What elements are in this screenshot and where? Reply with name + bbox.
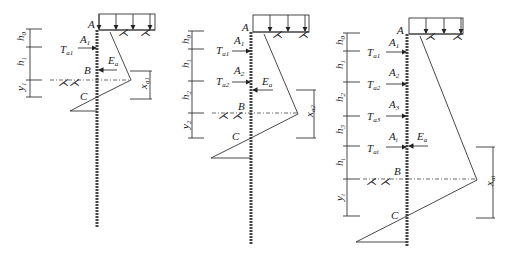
figure-single-anchor: ⋌ ⋌ ⋌⋌ h0 h1 y1 A A1 Ta1 Ea B C xa1: [14, 14, 155, 228]
dim-h1: h1: [14, 57, 28, 66]
point-C: C: [391, 209, 399, 221]
point-C: C: [232, 130, 240, 142]
dim-xa1: xa1: [137, 77, 151, 90]
anchor-point-A1: A1: [388, 36, 399, 50]
dim-xa2: xa2: [303, 105, 317, 118]
earth-pressure-Ea: Ea: [107, 54, 119, 68]
svg-text:⋌: ⋌: [118, 26, 129, 38]
anchor-force-Ta1: Ta1: [216, 44, 229, 58]
figure-multi-anchor: ⋌ ⋌ ⋌ ⋌ h0 h1 h2 h3 hi yi A A1 Ta1 A2 Ta…: [333, 18, 497, 247]
dim-y2: y2: [179, 120, 193, 130]
svg-text:⋌: ⋌: [452, 30, 463, 42]
svg-text:⋌: ⋌: [272, 28, 283, 40]
point-B: B: [84, 64, 91, 76]
anchor-force-Ta2: Ta2: [216, 75, 230, 89]
point-A: A: [87, 18, 95, 30]
point-C: C: [80, 90, 88, 102]
dim-h2: h2: [179, 91, 193, 101]
svg-text:⋌: ⋌: [298, 28, 309, 40]
svg-text:⋌ ⋌: ⋌ ⋌: [366, 175, 391, 187]
anchor-point-A1: A1: [233, 34, 244, 48]
dim-h0: h0: [333, 36, 347, 46]
svg-text:⋌: ⋌: [425, 30, 436, 42]
anchor-point-A2: A2: [388, 66, 400, 80]
anchor-point-A3: A3: [388, 98, 400, 112]
earth-pressure-Ea: Ea: [261, 75, 273, 89]
svg-text:⋌⋌: ⋌⋌: [58, 76, 80, 88]
anchor-force-Ta2: Ta2: [367, 78, 381, 92]
point-B: B: [238, 100, 245, 112]
point-A: A: [241, 21, 249, 33]
dim-h0: h0: [179, 35, 193, 45]
dim-y1: y1: [14, 83, 28, 92]
anchor-force-Tai: Tai: [367, 142, 379, 156]
dim-h3: h3: [333, 125, 347, 135]
anchor-point-Ai: Ai: [388, 130, 398, 144]
dim-h1: h1: [333, 60, 347, 69]
point-A: A: [396, 24, 404, 36]
dim-h1: h1: [179, 59, 193, 68]
anchor-point-A1: A1: [79, 33, 90, 47]
dim-yi: yi: [333, 194, 347, 202]
retaining-wall-diagrams: ⋌ ⋌ ⋌⋌ h0 h1 y1 A A1 Ta1 Ea B C xa1: [0, 0, 506, 258]
figure-double-anchor: ⋌ ⋌ ⋌ ⋌ h0 h1 h2 y2 A A1 Ta1 A2 Ta2 Ea B…: [179, 15, 317, 244]
earth-pressure-Ea: Ea: [416, 130, 428, 144]
anchor-force-Ta3: Ta3: [367, 110, 381, 124]
dim-h2: h2: [333, 93, 347, 103]
anchor-force-Ta1: Ta1: [60, 43, 73, 57]
dim-h0: h0: [14, 32, 28, 42]
svg-text:⋌: ⋌: [140, 26, 151, 38]
point-B: B: [394, 165, 401, 177]
anchor-point-A2: A2: [233, 64, 245, 78]
anchor-force-Ta1: Ta1: [367, 46, 380, 60]
dim-hi: hi: [333, 159, 347, 167]
dim-xai: xai: [483, 176, 497, 187]
